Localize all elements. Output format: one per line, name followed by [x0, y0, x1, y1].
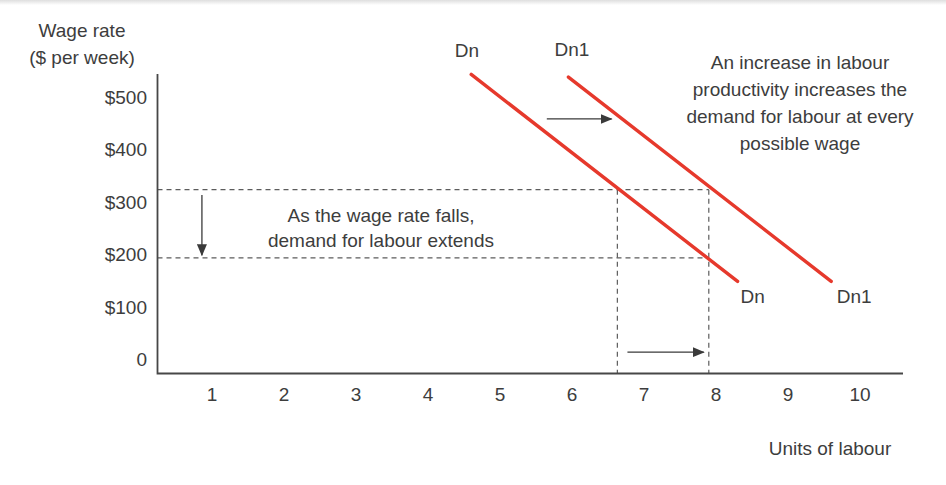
x-tick-label: 9 — [783, 384, 794, 406]
x-tick-label: 5 — [495, 384, 506, 406]
curve-label-dn-top: Dn — [455, 40, 479, 62]
y-axis-title-line: ($ per week) — [0, 44, 164, 71]
x-tick-label: 6 — [567, 384, 578, 406]
annotation-line: An increase in labour — [664, 49, 936, 76]
y-tick-label: $300 — [105, 192, 147, 214]
x-tick-label: 10 — [849, 384, 870, 406]
productivity-annotation: An increase in labour productivity incre… — [664, 49, 936, 157]
x-tick-label: 7 — [639, 384, 650, 406]
y-tick-label: $200 — [105, 244, 147, 266]
labour-demand-figure: Wage rate ($ per week) As the wage rate … — [0, 0, 946, 485]
y-axis-title: Wage rate ($ per week) — [0, 17, 164, 71]
y-tick-label: 0 — [136, 349, 147, 371]
y-axis-title-line: Wage rate — [0, 17, 164, 44]
annotation-line: demand for labour extends — [241, 228, 521, 253]
x-tick-label: 3 — [351, 384, 362, 406]
y-tick-label: $400 — [105, 139, 147, 161]
annotation-line: As the wage rate falls, — [241, 203, 521, 228]
x-tick-label: 2 — [279, 384, 290, 406]
x-tick-label: 4 — [423, 384, 434, 406]
annotation-line: possible wage — [664, 130, 936, 157]
y-tick-label: $100 — [105, 297, 147, 319]
wage-fall-annotation: As the wage rate falls, demand for labou… — [241, 203, 521, 253]
x-axis-title: Units of labour — [730, 436, 930, 461]
x-tick-label: 1 — [207, 384, 218, 406]
x-tick-label: 8 — [711, 384, 722, 406]
curve-label-dn1-top: Dn1 — [555, 39, 590, 61]
curve-label-dn1-bottom: Dn1 — [837, 286, 872, 308]
curve-label-dn-bottom: Dn — [741, 286, 765, 308]
annotation-line: demand for labour at every — [664, 103, 936, 130]
y-tick-label: $500 — [105, 87, 147, 109]
annotation-line: productivity increases the — [664, 76, 936, 103]
